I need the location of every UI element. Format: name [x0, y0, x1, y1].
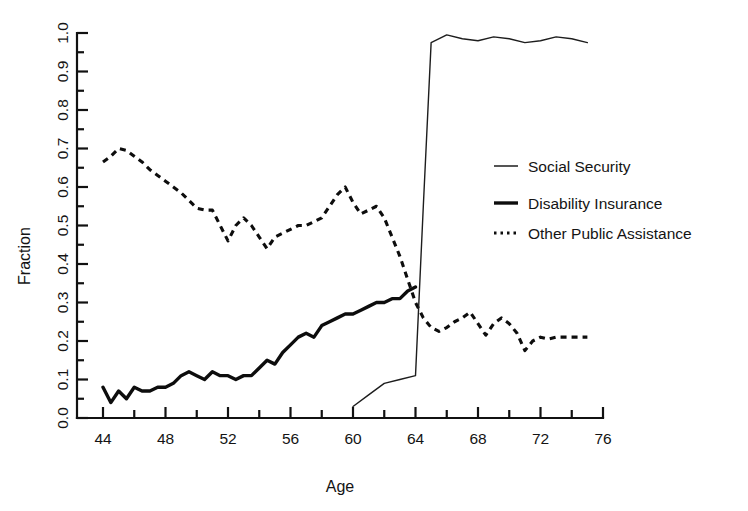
- x-axis-ticks: [103, 407, 603, 418]
- legend-item-social-security: Social Security: [494, 158, 631, 175]
- x-tick-label: 48: [157, 430, 174, 447]
- legend-label-social-security: Social Security: [528, 158, 631, 175]
- chart-svg: 0.00.10.20.30.40.50.60.70.80.91.0 444852…: [0, 0, 748, 511]
- y-tick-label: 0.7: [54, 138, 71, 160]
- y-tick-label: 0.1: [54, 369, 71, 391]
- y-tick-label: 0.3: [54, 292, 71, 314]
- y-tick-label: 0.5: [54, 215, 71, 237]
- axis-group: [77, 33, 603, 418]
- y-tick-label: 0.8: [54, 99, 71, 121]
- chart-figure: 0.00.10.20.30.40.50.60.70.80.91.0 444852…: [0, 0, 748, 511]
- x-tick-label: 76: [594, 430, 611, 447]
- y-tick-label: 0.2: [54, 330, 71, 352]
- x-tick-label: 68: [469, 430, 486, 447]
- series-disability-insurance: [103, 287, 416, 403]
- y-tick-label: 0.0: [54, 407, 71, 429]
- series-social-security: [353, 35, 587, 407]
- y-tick-label: 0.9: [54, 61, 71, 83]
- y-axis-tick-labels: 0.00.10.20.30.40.50.60.70.80.91.0: [54, 22, 71, 429]
- series-other-public-assistance: [103, 149, 587, 351]
- legend-label-disability-insurance: Disability Insurance: [528, 195, 662, 212]
- x-tick-label: 52: [219, 430, 236, 447]
- legend-item-disability-insurance: Disability Insurance: [494, 195, 662, 212]
- y-tick-label: 0.4: [54, 253, 71, 275]
- x-tick-label: 72: [532, 430, 549, 447]
- legend-item-other-public-assistance: Other Public Assistance: [494, 225, 692, 242]
- x-tick-label: 60: [344, 430, 362, 447]
- legend-label-other-public-assistance: Other Public Assistance: [528, 225, 692, 242]
- x-tick-label: 44: [94, 430, 112, 447]
- y-tick-label: 1.0: [54, 22, 71, 44]
- x-tick-label: 64: [407, 430, 425, 447]
- x-tick-label: 56: [282, 430, 299, 447]
- chart-legend: Social Security Disability Insurance Oth…: [494, 158, 692, 242]
- series-layer: [103, 35, 587, 407]
- x-axis-title: Age: [326, 478, 355, 495]
- y-tick-label: 0.6: [54, 176, 71, 198]
- x-axis-tick-labels: 444852566064687276: [94, 430, 611, 447]
- y-axis-title: Fraction: [16, 227, 33, 285]
- y-axis-ticks: [77, 33, 88, 418]
